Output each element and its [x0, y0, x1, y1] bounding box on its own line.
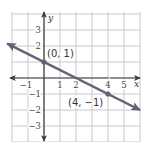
x-tick-label: 4 [105, 80, 110, 90]
point-a-label: (0, 1) [47, 48, 74, 59]
x-tick-label: 5 [121, 80, 126, 90]
point-b-marker [105, 91, 110, 96]
y-axis-label: y [47, 13, 54, 23]
y-tick-label: −2 [28, 105, 41, 115]
x-tick-label: 1 [57, 80, 62, 90]
y-tick-label: 2 [36, 41, 41, 51]
point-a-marker [41, 59, 46, 64]
coordinate-plane: −1124532−1−2−3 x y (0, 1) (4, −1) [0, 0, 146, 142]
y-tick-label: −3 [28, 121, 41, 131]
x-tick-label: 2 [73, 80, 78, 90]
point-b-label: (4, −1) [68, 97, 103, 108]
y-tick-label: −1 [28, 89, 41, 99]
y-tick-label: 3 [36, 25, 41, 35]
x-axis-label: x [134, 79, 139, 89]
